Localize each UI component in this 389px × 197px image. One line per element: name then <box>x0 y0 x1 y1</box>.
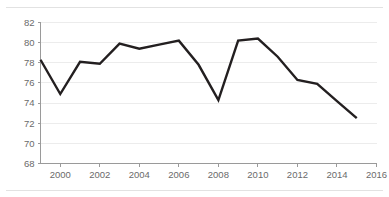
y-tick-label-74: 74 <box>24 97 35 108</box>
x-tick-label-2000: 2000 <box>50 169 71 180</box>
y-axis-tick-labels: 6870727476788082 <box>24 17 35 169</box>
y-tick-label-70: 70 <box>24 138 35 149</box>
x-tick-label-2012: 2012 <box>287 169 308 180</box>
x-tick-label-2008: 2008 <box>208 169 229 180</box>
x-tick-label-2004: 2004 <box>129 169 150 180</box>
x-tick-label-2002: 2002 <box>89 169 110 180</box>
y-tick-label-72: 72 <box>24 118 35 129</box>
line-chart: 6870727476788082 20002002200420062008201… <box>0 0 389 197</box>
x-axis-tick-labels: 200020022004200620082010201220142016 <box>50 169 387 180</box>
y-tick-label-82: 82 <box>24 17 35 28</box>
data-series-line <box>41 39 357 119</box>
y-tick-label-78: 78 <box>24 57 35 68</box>
x-tick-label-2006: 2006 <box>168 169 189 180</box>
x-tick-label-2014: 2014 <box>326 169 347 180</box>
y-tick-label-68: 68 <box>24 158 35 169</box>
chart-figure: 6870727476788082 20002002200420062008201… <box>0 0 389 197</box>
x-tick-label-2010: 2010 <box>247 169 268 180</box>
y-tick-label-80: 80 <box>24 37 35 48</box>
x-tick-label-2016: 2016 <box>366 169 387 180</box>
y-tick-label-76: 76 <box>24 77 35 88</box>
